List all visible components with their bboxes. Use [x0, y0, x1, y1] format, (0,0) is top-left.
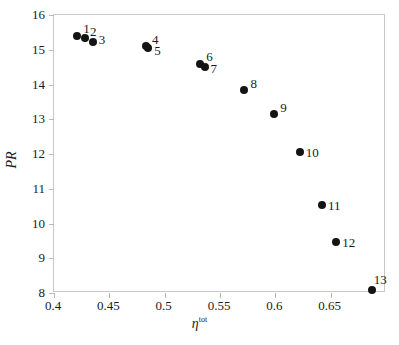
data-point-label: 11: [328, 199, 341, 212]
data-point: [73, 32, 81, 40]
data-point-label: 5: [154, 44, 161, 57]
scatter-chart-figure: PR ηtot 89101112131415160.40.450.50.550.…: [0, 0, 399, 345]
x-axis-tick-label: 0.55: [189, 299, 249, 312]
y-axis-tick-label: 11: [5, 182, 45, 195]
x-axis-title: ηtot: [0, 315, 399, 332]
data-point-label: 1: [83, 22, 90, 35]
y-axis-tick-label: 13: [5, 112, 45, 125]
x-axis-tick-label: 0.4: [23, 299, 83, 312]
data-point: [296, 148, 304, 156]
data-point-label: 13: [374, 273, 387, 286]
data-point: [89, 38, 97, 46]
data-point: [240, 86, 248, 94]
y-axis-tick-label: 15: [5, 43, 45, 56]
data-point: [318, 201, 326, 209]
data-point-label: 3: [99, 33, 106, 46]
data-point: [368, 286, 376, 294]
plot-area: [53, 14, 385, 292]
x-axis-title-superscript: tot: [199, 315, 207, 324]
data-point: [144, 44, 152, 52]
x-axis-tick-label: 0.6: [244, 299, 304, 312]
y-axis-tick-label: 8: [5, 286, 45, 299]
y-axis-tick-label: 10: [5, 217, 45, 230]
y-axis-tick: [49, 189, 54, 190]
y-axis-tick: [49, 119, 54, 120]
data-point-label: 7: [211, 62, 218, 75]
data-point-label: 8: [250, 77, 257, 90]
y-axis-tick-label: 16: [5, 8, 45, 21]
y-axis-tick-label: 12: [5, 147, 45, 160]
y-axis-tick-label: 9: [5, 251, 45, 264]
y-axis-tick: [49, 85, 54, 86]
y-axis-tick: [49, 258, 54, 259]
y-axis-tick: [49, 224, 54, 225]
data-point-label: 9: [280, 101, 287, 114]
data-point: [332, 238, 340, 246]
x-axis-tick-label: 0.5: [134, 299, 194, 312]
y-axis-tick: [49, 15, 54, 16]
data-point: [201, 63, 209, 71]
x-axis-title-symbol: η: [192, 316, 199, 331]
y-axis-tick: [49, 50, 54, 51]
data-point-label: 10: [306, 146, 319, 159]
y-axis-title: PR: [4, 140, 20, 180]
y-axis-tick: [49, 154, 54, 155]
x-axis-tick-label: 0.65: [300, 299, 360, 312]
y-axis-tick-label: 14: [5, 78, 45, 91]
data-point: [270, 110, 278, 118]
x-axis-tick-label: 0.45: [78, 299, 138, 312]
data-point-label: 12: [342, 236, 355, 249]
data-point-label: 2: [90, 25, 97, 38]
